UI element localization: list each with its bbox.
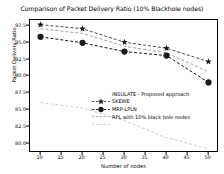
y-tick-label: 80.0 <box>3 140 26 146</box>
x-axis-label: Number of nodes <box>29 163 218 169</box>
y-tick-mark <box>26 41 29 42</box>
y-tick-label: 97.5 <box>3 22 26 28</box>
x-tick-mark <box>186 152 187 155</box>
series-line <box>41 37 209 83</box>
legend-label: INSULATE - Proposed approach <box>110 91 189 97</box>
y-tick-label: 95.0 <box>3 39 26 45</box>
legend-item: MRP-LPLN <box>92 105 206 113</box>
legend-label: SKEWE <box>110 98 130 104</box>
y-tick-label: 85.0 <box>3 106 26 112</box>
x-tick-mark <box>165 152 166 155</box>
legend-key-dashed-lightgray-icon <box>92 113 110 120</box>
y-tick-label: 92.5 <box>3 56 26 62</box>
legend-item: SKEWE <box>92 98 206 106</box>
data-point-marker <box>121 48 127 54</box>
legend-item: INSULATE - Proposed approach <box>92 90 206 98</box>
x-tick-mark <box>102 152 103 155</box>
x-tick-label: 25 <box>99 154 105 160</box>
y-tick-mark <box>26 109 29 110</box>
data-point-marker <box>205 79 211 85</box>
y-axis-ticks: 80.082.585.087.590.092.595.097.5 <box>0 0 26 174</box>
chart-legend: INSULATE - Proposed approach SKEWE MR <box>90 88 208 122</box>
legend-item: RPL with 10% black hole nodes <box>92 113 206 121</box>
legend-key-star-icon <box>92 90 110 97</box>
legend-label: MRP-LPLN <box>110 106 137 112</box>
x-tick-label: 45 <box>183 154 189 160</box>
legend-key-dashed-gray-icon <box>92 105 110 112</box>
x-tick-label: 30 <box>120 154 126 160</box>
x-tick-mark <box>144 152 145 155</box>
x-tick-mark <box>81 152 82 155</box>
data-point-marker <box>79 25 85 31</box>
data-point-marker <box>205 58 211 64</box>
x-tick-mark <box>60 152 61 155</box>
chart-title: Comparison of Packet Delivery Ratio (10%… <box>0 5 224 12</box>
x-tick-label: 50 <box>204 154 210 160</box>
legend-key-circle-icon <box>92 98 110 105</box>
series-lines <box>30 20 217 151</box>
y-tick-label: 90.0 <box>3 72 26 78</box>
y-tick-label: 82.5 <box>3 123 26 129</box>
x-tick-mark <box>123 152 124 155</box>
data-point-marker <box>121 39 127 45</box>
data-point-marker <box>163 45 169 51</box>
data-point-marker <box>37 21 43 27</box>
y-tick-mark <box>26 92 29 93</box>
x-tick-mark <box>207 152 208 155</box>
y-tick-mark <box>26 125 29 126</box>
x-tick-label: 10 <box>36 154 42 160</box>
y-tick-mark <box>26 75 29 76</box>
y-tick-mark <box>26 58 29 59</box>
data-point-marker <box>163 53 169 59</box>
x-tick-label: 15 <box>57 154 63 160</box>
plot-frame: INSULATE - Proposed approach SKEWE MR <box>29 19 218 152</box>
x-tick-label: 40 <box>162 154 168 160</box>
x-tick-label: 20 <box>78 154 84 160</box>
plot-area <box>30 20 217 151</box>
y-tick-mark <box>26 25 29 26</box>
y-tick-mark <box>26 142 29 143</box>
data-point-marker <box>37 34 43 40</box>
chart-figure: Comparison of Packet Delivery Ratio (10%… <box>0 0 224 174</box>
data-point-marker <box>79 40 85 46</box>
y-tick-label: 87.5 <box>3 89 26 95</box>
legend-label: RPL with 10% black hole nodes <box>110 114 190 120</box>
x-tick-mark <box>39 152 40 155</box>
x-tick-label: 35 <box>141 154 147 160</box>
